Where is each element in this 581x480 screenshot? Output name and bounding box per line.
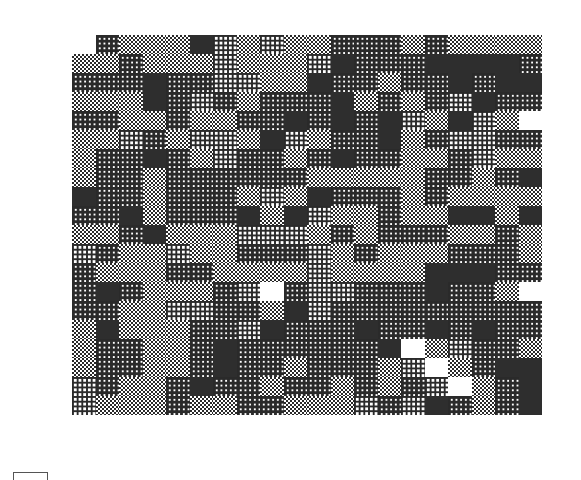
grid-cell-dense-grid: [331, 339, 355, 358]
grid-cell-checker: [331, 244, 355, 263]
grid-cell-dense-grid: [354, 149, 378, 168]
pattern-grid-board: [72, 35, 542, 415]
grid-cell-dense-grid: [495, 130, 519, 149]
grid-cell-light-grid: [213, 130, 237, 149]
grid-cell-dense-grid: [354, 358, 378, 377]
grid-cell-dense-grid: [72, 301, 96, 320]
grid-cell-dark-solid: [448, 263, 472, 282]
grid-cell-checker: [472, 35, 496, 54]
grid-cell-light-grid: [260, 187, 284, 206]
grid-cell-dense-grid: [237, 358, 261, 377]
grid-cell-checker: [72, 54, 96, 73]
grid-cell-checker: [401, 92, 425, 111]
grid-cell-checker: [519, 225, 543, 244]
grid-cell-dense-grid: [166, 73, 190, 92]
grid-cell-checker: [425, 149, 449, 168]
grid-cell-dense-grid: [331, 130, 355, 149]
grid-cell-checker: [190, 396, 214, 415]
grid-cell-dense-grid: [425, 73, 449, 92]
grid-cell-checker: [190, 282, 214, 301]
grid-cell-checker: [401, 168, 425, 187]
grid-cell-dense-grid: [401, 225, 425, 244]
grid-cell-dense-grid: [213, 187, 237, 206]
grid-cell-dense-grid: [237, 111, 261, 130]
grid-cell-dense-grid: [96, 206, 120, 225]
grid-cell-dense-grid: [119, 282, 143, 301]
grid-cell-dense-grid: [213, 92, 237, 111]
grid-cell-light-grid: [72, 396, 96, 415]
grid-cell-dense-grid: [213, 320, 237, 339]
grid-cell-checker: [119, 263, 143, 282]
grid-cell-dark-solid: [284, 206, 308, 225]
grid-cell-dark-solid: [425, 54, 449, 73]
grid-cell-checker: [284, 396, 308, 415]
grid-cell-checker: [472, 377, 496, 396]
grid-cell-light-grid: [307, 263, 331, 282]
grid-cell-dark-solid: [472, 92, 496, 111]
grid-cell-checker: [519, 149, 543, 168]
grid-cell-white: [401, 339, 425, 358]
grid-cell-dense-grid: [307, 92, 331, 111]
grid-cell-dense-grid: [519, 130, 543, 149]
grid-cell-checker: [143, 187, 167, 206]
grid-cell-dense-grid: [354, 111, 378, 130]
grid-cell-checker: [166, 35, 190, 54]
grid-cell-dense-grid: [448, 396, 472, 415]
grid-cell-dark-solid: [495, 54, 519, 73]
grid-cell-checker: [143, 168, 167, 187]
grid-cell-light-grid: [307, 54, 331, 73]
grid-cell-checker: [284, 263, 308, 282]
grid-cell-dense-grid: [143, 130, 167, 149]
grid-cell-checker: [119, 35, 143, 54]
grid-cell-checker: [401, 187, 425, 206]
grid-cell-checker: [307, 35, 331, 54]
grid-cell-dense-grid: [331, 358, 355, 377]
grid-cell-checker: [143, 396, 167, 415]
grid-cell-light-grid: [284, 225, 308, 244]
grid-cell-checker: [401, 130, 425, 149]
grid-cell-dense-grid: [495, 320, 519, 339]
grid-cell-dense-grid: [472, 73, 496, 92]
grid-cell-dark-solid: [448, 73, 472, 92]
grid-cell-checker: [119, 301, 143, 320]
grid-cell-light-grid: [472, 149, 496, 168]
grid-cell-checker: [213, 111, 237, 130]
grid-cell-checker: [237, 54, 261, 73]
grid-cell-dense-grid: [190, 206, 214, 225]
grid-cell-checker: [166, 320, 190, 339]
grid-cell-checker: [143, 377, 167, 396]
grid-cell-dense-grid: [166, 377, 190, 396]
grid-cell-dense-grid: [119, 358, 143, 377]
grid-cell-light-grid: [307, 301, 331, 320]
grid-cell-checker: [448, 35, 472, 54]
grid-cell-dense-grid: [190, 358, 214, 377]
grid-cell-light-grid: [307, 244, 331, 263]
grid-cell-dense-grid: [96, 301, 120, 320]
grid-cell-dense-grid: [401, 377, 425, 396]
grid-cell-checker: [519, 244, 543, 263]
grid-cell-checker: [284, 187, 308, 206]
grid-cell-dense-grid: [119, 339, 143, 358]
grid-cell-checker: [143, 54, 167, 73]
grid-cell-dense-grid: [96, 244, 120, 263]
grid-cell-dense-grid: [448, 301, 472, 320]
grid-cell-dense-grid: [72, 282, 96, 301]
grid-cell-checker: [119, 244, 143, 263]
grid-cell-checker: [331, 377, 355, 396]
grid-cell-dense-grid: [190, 339, 214, 358]
grid-cell-dark-solid: [448, 206, 472, 225]
grid-cell-dense-grid: [237, 396, 261, 415]
grid-cell-checker: [284, 54, 308, 73]
grid-cell-dense-grid: [166, 111, 190, 130]
grid-cell-dark-solid: [143, 73, 167, 92]
grid-cell-dense-grid: [354, 35, 378, 54]
grid-cell-dense-grid: [495, 396, 519, 415]
grid-cell-dense-grid: [96, 187, 120, 206]
grid-cell-dense-grid: [495, 225, 519, 244]
grid-cell-checker: [260, 54, 284, 73]
grid-cell-dense-grid: [331, 35, 355, 54]
grid-cell-dense-grid: [260, 244, 284, 263]
grid-cell-dense-grid: [284, 168, 308, 187]
grid-cell-checker: [331, 396, 355, 415]
grid-cell-dense-grid: [378, 225, 402, 244]
